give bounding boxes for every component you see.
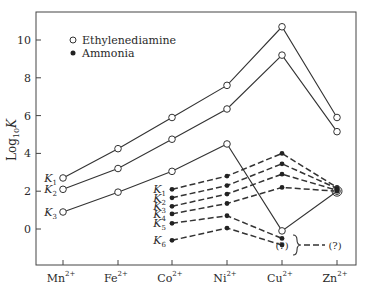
ethylenediamine-point (279, 23, 286, 30)
ammonia-point (225, 201, 230, 206)
brace (293, 235, 301, 255)
y-tick-label: 10 (17, 34, 31, 47)
ammonia-k6-line (172, 228, 282, 245)
ethylenediamine-point (279, 52, 286, 59)
ammonia-point (280, 172, 285, 177)
y-tick-label: 8 (24, 72, 31, 85)
ammonia-k3-line (172, 174, 337, 206)
ethylenediamine-point (224, 106, 231, 113)
ammonia-point (170, 221, 175, 226)
ethylenediamine-k3-line (63, 144, 337, 231)
x-axis: Mn2+Fe2+Co2+Ni2+Cu2+Zn2+ (47, 260, 348, 285)
ammonia-point (170, 204, 175, 209)
y-axis-label-main: Log (5, 138, 19, 161)
y-axis-label-sub: 10 (12, 128, 21, 138)
ammonia-k4-line (172, 187, 337, 213)
x-tick-label: Zn2+ (322, 270, 347, 285)
ethylenediamine-point (224, 82, 231, 89)
y-tick-label: 6 (24, 110, 31, 123)
ammonia-point (225, 226, 230, 231)
ethylenediamine-point (60, 175, 67, 182)
ethylenediamine-k3-label: K3 (43, 206, 57, 221)
ethylenediamine-point (60, 186, 67, 193)
ethylenediamine-point (169, 136, 176, 143)
uncertain-annotation: (?) (328, 240, 341, 251)
y-axis-label-var: K (5, 118, 19, 129)
ethylenediamine-point (115, 145, 122, 152)
ammonia-point (335, 189, 340, 194)
ammonia-point (225, 183, 230, 188)
ammonia-point (170, 195, 175, 200)
x-tick-label: Fe2+ (104, 270, 128, 285)
y-tick-label: 0 (24, 223, 31, 236)
y-tick-label: 4 (24, 147, 31, 160)
ethylenediamine-point (169, 114, 176, 121)
ethylenediamine-k2-line (63, 55, 337, 189)
ethylenediamine-point (279, 228, 286, 235)
ammonia-point (280, 161, 285, 166)
ethylenediamine-point (115, 189, 122, 196)
legend: Ethylenediamine Ammonia (70, 34, 176, 60)
legend-marker-ammonia (71, 51, 76, 56)
ethylenediamine-point (115, 165, 122, 172)
legend-marker-ethylenediamine (70, 37, 76, 43)
x-tick-label: Mn2+ (47, 270, 76, 285)
ammonia-point (225, 213, 230, 218)
annotations: (?)(?) (275, 235, 341, 255)
ammonia-point (225, 192, 230, 197)
ammonia-k2-line (172, 164, 337, 198)
ammonia-point (280, 151, 285, 156)
ethylenediamine-point (60, 209, 67, 216)
stability-constant-chart: 0246810 Mn2+Fe2+Co2+Ni2+Cu2+Zn2+ Log10K … (0, 0, 366, 293)
ammonia-point (170, 211, 175, 216)
ethylenediamine-point (334, 114, 341, 121)
ethylenediamine-point (169, 168, 176, 175)
legend-label-ethylenediamine: Ethylenediamine (82, 34, 176, 47)
ammonia-point (170, 187, 175, 192)
ammonia-point (280, 185, 285, 190)
ammonia-point (170, 238, 175, 243)
uncertain-annotation: (?) (275, 240, 288, 251)
ethylenediamine-point (334, 128, 341, 135)
ethylenediamine-point (224, 141, 231, 148)
ammonia-k6-label: K6 (152, 234, 166, 249)
legend-label-ammonia: Ammonia (81, 47, 135, 60)
x-tick-label: Ni2+ (213, 270, 237, 285)
y-tick-label: 2 (24, 185, 31, 198)
y-axis-label: Log10K (5, 118, 21, 161)
x-tick-label: Co2+ (157, 270, 183, 285)
x-tick-label: Cu2+ (267, 270, 293, 285)
ammonia-point (225, 174, 230, 179)
svg-text:Log10K: Log10K (5, 118, 21, 161)
